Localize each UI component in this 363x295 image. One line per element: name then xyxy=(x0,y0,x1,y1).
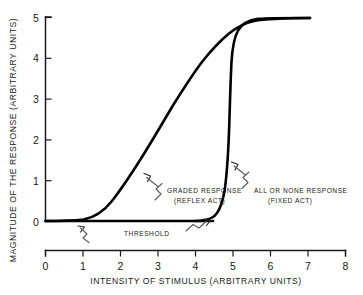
y-tick-label-1: 1 xyxy=(33,175,39,187)
response-curve-figure: 5 4 3 2 1 0 MAGNITUDE OF THE RESPONSE (A… xyxy=(0,0,363,295)
x-axis-title: INTENSITY OF STIMULUS (ARBITRARY UNITS) xyxy=(90,276,302,286)
all-or-none-label-line1: ALL OR NONE RESPONSE xyxy=(254,187,348,194)
y-tick-label-3: 3 xyxy=(33,93,39,105)
all-or-none-label-line2: (FIXED ACT) xyxy=(268,197,313,205)
x-tick-label-4: 4 xyxy=(192,260,198,272)
x-tick-label-2: 2 xyxy=(117,260,123,272)
x-tick-label-1: 1 xyxy=(80,260,86,272)
y-tick-label-2: 2 xyxy=(33,134,39,146)
x-tick-label-7: 7 xyxy=(305,260,311,272)
x-tick-label-6: 6 xyxy=(267,260,273,272)
y-tick-label-4: 4 xyxy=(33,52,39,64)
y-tick-label-5: 5 xyxy=(33,12,39,24)
x-tick-label-5: 5 xyxy=(230,260,236,272)
graded-response-label-line2: (REFLEX ACT) xyxy=(174,197,225,205)
y-tick-label-0: 0 xyxy=(33,216,39,228)
graded-response-label-line1: GRADED RESPONSE xyxy=(167,187,242,194)
x-tick-label-0: 0 xyxy=(42,260,48,272)
chart-svg: 5 4 3 2 1 0 MAGNITUDE OF THE RESPONSE (A… xyxy=(0,0,363,295)
y-axis-title: MAGNITUDE OF THE RESPONSE (ARBITRARY UNI… xyxy=(8,18,18,262)
threshold-label: THRESHOLD xyxy=(124,230,170,237)
x-tick-label-3: 3 xyxy=(155,260,161,272)
x-tick-label-8: 8 xyxy=(342,260,348,272)
